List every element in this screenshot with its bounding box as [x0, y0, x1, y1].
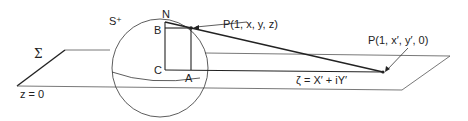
point-a-label: A: [185, 72, 193, 84]
point-p-sphere-label: P(1, x, y, z): [223, 18, 278, 30]
complex-coordinate-label: ζ = X′ + iY′: [296, 74, 347, 86]
plane-label: Σ: [34, 47, 42, 61]
stereographic-diagram: S⁺ Σ z = 0 N B C A P(1, x, y, z) P(1, x′…: [0, 0, 468, 121]
sphere-label: S⁺: [109, 15, 122, 27]
projected-point-label: P(1, x′, y′, 0): [368, 34, 428, 46]
point-c-label: C: [154, 64, 162, 76]
plane-equation-label: z = 0: [20, 88, 44, 100]
plane-sigma: [17, 50, 450, 90]
point-b-label: B: [154, 24, 161, 36]
north-pole-label: N: [162, 8, 170, 20]
